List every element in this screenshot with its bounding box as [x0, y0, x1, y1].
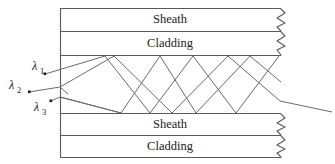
ray-labels: λ 1 λ 2 λ 3 [8, 59, 46, 117]
ray-path-lambda3-lower-chord [60, 97, 121, 113]
ray-path-lambda3 [51, 56, 281, 113]
fiber-svg-canvas: Sheath Cladding Sheath Cladding λ 1 λ 2 … [0, 0, 335, 164]
label-lambda2-subscript: 2 [17, 85, 21, 95]
label-lambda1-subscript: 1 [40, 66, 44, 76]
label-bottom-cladding: Cladding [147, 139, 194, 153]
ray-path-lambda2-entry [60, 87, 68, 94]
break-mark-bottom-cladding [277, 136, 285, 157]
entry-dot-lambda3 [50, 100, 53, 103]
break-mark-bottom-sheath [277, 114, 285, 135]
break-mark-top-sheath [277, 9, 285, 31]
ray-path-lambda1 [45, 56, 279, 113]
label-lambda2-symbol: λ [8, 78, 14, 92]
ray-path-lambda2 [29, 56, 332, 113]
ray-paths [29, 56, 332, 113]
fiber-structure-lines [60, 8, 281, 158]
ray-entry-dots [28, 73, 52, 103]
entry-dot-lambda2 [28, 91, 31, 94]
label-bottom-sheath: Sheath [153, 117, 188, 131]
label-lambda3-symbol: λ [33, 100, 39, 114]
label-top-cladding: Cladding [147, 36, 194, 50]
label-lambda3-subscript: 3 [42, 107, 46, 117]
optical-fiber-diagram: Sheath Cladding Sheath Cladding λ 1 λ 2 … [0, 0, 335, 164]
break-mark-top-cladding [277, 32, 285, 55]
label-top-sheath: Sheath [153, 12, 188, 26]
label-lambda1-symbol: λ [31, 59, 37, 73]
